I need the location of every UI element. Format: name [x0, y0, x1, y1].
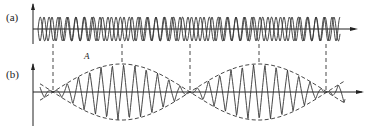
- waveform-plot: [0, 0, 374, 131]
- panel-b-x-arrow-icon: [356, 90, 364, 94]
- panel-b-y-arrow-icon: [31, 63, 35, 70]
- panel-a-x-arrow-icon: [350, 27, 358, 31]
- beat-diagram: (a) (b) A: [0, 0, 374, 131]
- panel-a-y-arrow-icon: [31, 3, 35, 10]
